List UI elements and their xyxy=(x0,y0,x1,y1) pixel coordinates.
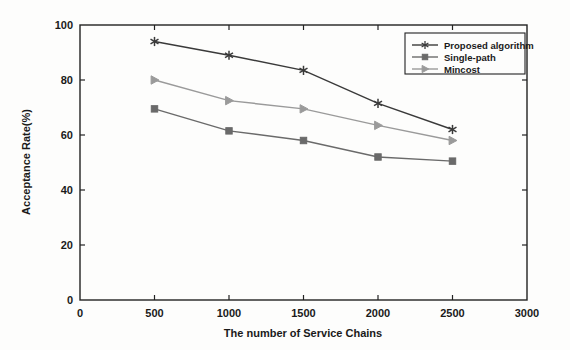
figure-canvas: 050010001500200025003000 020406080100 Th… xyxy=(0,0,570,350)
marker-triangle-right xyxy=(151,76,159,84)
x-tick-label: 1500 xyxy=(291,307,315,319)
legend-label: Mincost xyxy=(444,64,481,75)
x-axis-title: The number of Service Chains xyxy=(224,327,382,339)
y-axis-tick-labels: 020406080100 xyxy=(55,19,73,306)
x-tick-label: 3000 xyxy=(515,307,539,319)
marker-square xyxy=(300,137,306,143)
x-tick-label: 2000 xyxy=(366,307,390,319)
x-axis-tick-labels: 050010001500200025003000 xyxy=(77,307,539,319)
y-tick-label: 40 xyxy=(61,184,73,196)
series-line xyxy=(155,109,453,161)
marker-triangle-right xyxy=(300,105,308,113)
y-tick-label: 80 xyxy=(61,74,73,86)
y-tick-label: 100 xyxy=(55,19,73,31)
marker-square xyxy=(151,106,157,112)
x-tick-label: 500 xyxy=(145,307,163,319)
y-tick-label: 0 xyxy=(67,294,73,306)
y-axis-title: Acceptance Rate(%) xyxy=(20,109,32,215)
line-chart: 050010001500200025003000 020406080100 Th… xyxy=(0,0,570,350)
marker-square xyxy=(449,158,455,164)
x-tick-label: 1000 xyxy=(217,307,241,319)
marker-triangle-right xyxy=(375,121,383,129)
marker-triangle-right xyxy=(226,96,234,104)
legend-label: Proposed algorithm xyxy=(444,40,534,51)
y-axis-ticks xyxy=(80,80,527,245)
x-tick-label: 0 xyxy=(77,307,83,319)
chart-legend[interactable]: Proposed algorithmSingle-pathMincost xyxy=(405,33,534,75)
marker-square xyxy=(422,54,427,59)
marker-square xyxy=(375,154,381,160)
x-tick-label: 2500 xyxy=(440,307,464,319)
y-tick-label: 20 xyxy=(61,239,73,251)
marker-square xyxy=(226,128,232,134)
marker-triangle-right xyxy=(449,136,457,144)
series-mincost xyxy=(151,76,457,145)
legend-label: Single-path xyxy=(444,52,496,63)
y-tick-label: 60 xyxy=(61,129,73,141)
